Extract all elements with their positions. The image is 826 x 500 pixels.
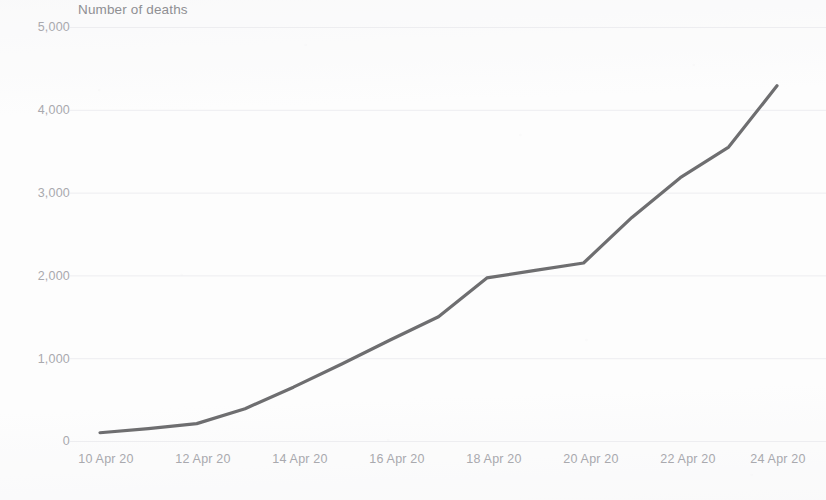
- gridlines: [70, 28, 826, 442]
- chart-page: Number of deaths 5,000 4,000 3,000 2,000…: [0, 0, 826, 500]
- plot-area: [0, 0, 826, 500]
- deaths-line-series: [100, 86, 777, 433]
